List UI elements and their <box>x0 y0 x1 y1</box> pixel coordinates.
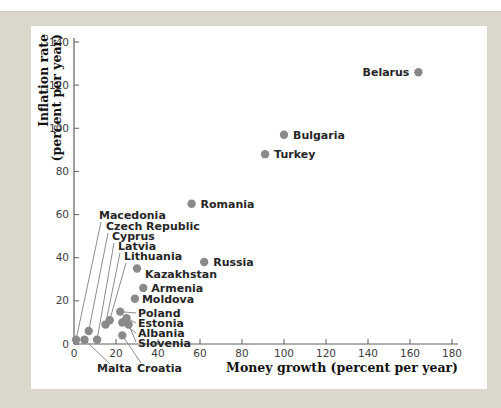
y-tick-label: 20 <box>56 294 69 306</box>
x-axis-title: Money growth (percent per year) <box>226 360 458 375</box>
point-bulgaria <box>280 131 288 139</box>
y-tick-label: 80 <box>56 165 69 177</box>
x-tick-label: 180 <box>442 347 462 359</box>
point-poland <box>116 307 124 315</box>
point-label-bulgaria: Bulgaria <box>293 129 345 142</box>
point-moldova <box>131 295 139 303</box>
chart-layer: 0204060801001201401601800204060801001201… <box>49 36 462 376</box>
x-tick-label: 160 <box>400 347 420 359</box>
point-belarus <box>414 68 422 76</box>
point-label-romania: Romania <box>201 198 255 211</box>
x-tick-label: 100 <box>274 347 294 359</box>
x-tick-label: 0 <box>71 347 78 359</box>
point-kazakhstan <box>133 264 141 272</box>
figure-panel: 0204060801001201401601800204060801001201… <box>31 26 487 389</box>
y-tick-label: 0 <box>62 338 69 350</box>
leader-line-macedonia <box>76 222 101 340</box>
point-cyprus <box>93 335 101 343</box>
y-tick-label: 40 <box>56 251 69 263</box>
point-macedonia <box>72 335 80 343</box>
scatter-plot: 0204060801001201401601800204060801001201… <box>31 26 487 389</box>
top-margin-strip <box>0 0 501 12</box>
point-label-malta: Malta <box>97 362 132 375</box>
point-label-macedonia: Macedonia <box>99 209 166 222</box>
point-label-kazakhstan: Kazakhstan <box>145 268 217 281</box>
point-armenia <box>139 284 147 292</box>
point-croatia <box>118 331 126 339</box>
point-russia <box>200 258 208 266</box>
x-tick-label: 60 <box>193 347 206 359</box>
point-czech-republic <box>85 327 93 335</box>
point-label-russia: Russia <box>213 256 254 269</box>
leader-line-czech-republic <box>89 233 108 331</box>
y-tick-label: 60 <box>56 208 69 220</box>
point-latvia <box>101 320 109 328</box>
point-malta <box>80 335 88 343</box>
point-label-slovenia: Slovenia <box>138 337 191 350</box>
x-tick-label: 140 <box>358 347 378 359</box>
point-label-croatia: Croatia <box>137 362 182 375</box>
y-axis-title-line2: (percent per year) <box>49 34 64 161</box>
point-label-moldova: Moldova <box>142 293 194 306</box>
point-label-turkey: Turkey <box>274 148 315 161</box>
point-slovenia <box>124 320 132 328</box>
point-turkey <box>261 150 269 158</box>
x-tick-label: 120 <box>316 347 336 359</box>
point-label-belarus: Belarus <box>363 66 410 79</box>
x-tick-label: 80 <box>235 347 248 359</box>
x-tick-label: 20 <box>109 347 122 359</box>
point-romania <box>187 200 195 208</box>
